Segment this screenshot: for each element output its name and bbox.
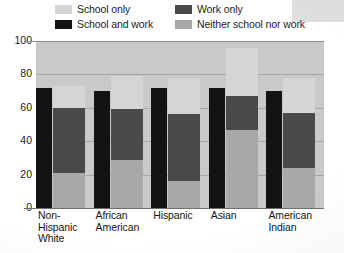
x-tick-label: Non-HispanicWhite: [38, 210, 94, 245]
x-tick-label-line: Non-: [38, 210, 94, 222]
segment-neither-school-nor-work: [111, 160, 143, 208]
legend-swatch-neither: [175, 20, 192, 29]
x-tick-label: AmericanIndian: [268, 210, 324, 233]
x-tick-label-line: Asian: [211, 210, 267, 222]
legend-item-school-and-work: School and work: [55, 19, 153, 30]
segment-work-only: [111, 109, 143, 159]
segment-school-only: [283, 78, 315, 113]
bar-stack: [168, 78, 200, 208]
bar-stack: [53, 63, 85, 208]
bar-group: [266, 41, 324, 208]
y-tick-label: 100: [2, 34, 32, 46]
legend-label-work-only: Work only: [197, 4, 243, 15]
y-tick-label: 0: [2, 201, 32, 213]
bar-stack: [111, 74, 143, 208]
x-axis-labels: Non-HispanicWhiteAfricanAmericanHispanic…: [36, 210, 324, 252]
x-tick-label-line: African: [96, 210, 152, 222]
bar-group: [151, 41, 209, 208]
y-tick-label: 80: [2, 67, 32, 79]
segment-neither-school-nor-work: [283, 168, 315, 208]
legend-label-school-only: School only: [77, 4, 130, 15]
legend-swatch-school-and-work: [55, 20, 72, 29]
bar-groups: [36, 41, 324, 208]
x-tick-label-line: American: [96, 222, 152, 234]
bar-stack: [226, 69, 258, 208]
legend-swatch-school-only: [55, 5, 72, 14]
y-tick-label: 60: [2, 101, 32, 113]
legend-swatch-work-only: [175, 5, 192, 14]
legend-item-school-only: School only: [55, 4, 130, 15]
legend-label-neither: Neither school nor work: [197, 19, 305, 30]
segment-work-only: [53, 108, 85, 173]
segment-neither-school-nor-work: [226, 130, 258, 208]
segment-school-only: [226, 48, 258, 96]
segment-school-only: [53, 86, 85, 108]
segment-work-only: [168, 114, 200, 181]
segment-school-only: [168, 78, 200, 115]
bar-stack: [283, 74, 315, 208]
x-tick-label-line: Hispanic: [153, 210, 209, 222]
chart-legend: School only Work only School and work Ne…: [55, 4, 323, 34]
plot-area: [36, 41, 324, 208]
bar-group: [94, 41, 152, 208]
bar-school-and-work: [94, 91, 110, 208]
bar-school-and-work: [209, 88, 225, 208]
bar-group: [209, 41, 267, 208]
y-axis: 100806040200: [0, 41, 32, 208]
chart-root: School only Work only School and work Ne…: [0, 0, 344, 253]
x-tick-label-line: Indian: [268, 222, 324, 234]
bar-school-and-work: [151, 88, 167, 208]
x-tick-label-line: American: [268, 210, 324, 222]
legend-item-neither: Neither school nor work: [175, 19, 305, 30]
bar-group: [36, 41, 94, 208]
legend-item-work-only: Work only: [175, 4, 243, 15]
x-tick-label: AfricanAmerican: [96, 210, 152, 233]
bar-school-and-work: [266, 91, 282, 208]
bar-school-and-work: [36, 88, 52, 208]
x-tick-label: Asian: [211, 210, 267, 222]
y-tick-label: 20: [2, 168, 32, 180]
y-tick-label: 40: [2, 134, 32, 146]
segment-neither-school-nor-work: [53, 173, 85, 208]
segment-work-only: [283, 113, 315, 168]
legend-label-school-and-work: School and work: [77, 19, 153, 30]
segment-work-only: [226, 96, 258, 129]
segment-school-only: [111, 76, 143, 109]
segment-neither-school-nor-work: [168, 181, 200, 208]
x-tick-label-line: White: [38, 233, 94, 245]
x-tick-label: Hispanic: [153, 210, 209, 222]
